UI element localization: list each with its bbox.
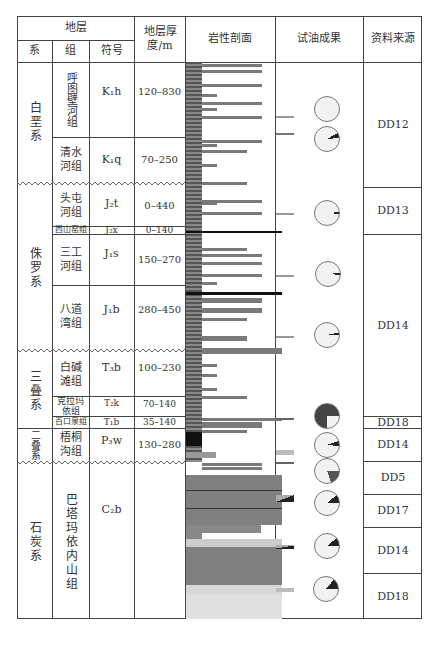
thickness-k1q: 70–250 <box>134 137 185 182</box>
header-lithology: 岩性剖面 <box>205 16 255 62</box>
oil-test-pie <box>314 200 340 226</box>
symbol-j1s: J₁s <box>89 234 134 274</box>
header-symbol: 符号 <box>89 40 134 62</box>
symbol-c2b: C₂b <box>89 465 134 555</box>
oil-tick <box>276 133 294 135</box>
oil-tick <box>276 418 294 420</box>
thickness-t2k: 70–140 <box>134 396 185 412</box>
oil-test-pie <box>314 432 340 458</box>
oil-tick <box>276 213 294 215</box>
formation-t3b: 白碱滩组 <box>56 353 85 396</box>
symbol-j1b: J₁b <box>89 285 134 335</box>
oil-test-pie <box>314 458 340 484</box>
source-label: DD14 <box>365 428 421 461</box>
system-cretaceous: 白垩系 <box>17 62 52 182</box>
system-permian: 二叠系 <box>17 428 52 461</box>
oil-tick <box>276 450 294 455</box>
source-label: DD14 <box>365 234 421 416</box>
symbol-t2k: T₂k <box>89 396 134 410</box>
header-oil-test: 试油成果 <box>295 16 343 62</box>
source-label: DD14 <box>365 527 421 573</box>
thickness-k1h: 120–830 <box>134 62 185 122</box>
formation-j2t: 头屯河组 <box>56 186 85 226</box>
oil-test-pie <box>314 96 340 122</box>
formation-t1b: 百口泉组 <box>52 416 89 428</box>
formation-t2k: 克拉玛依组 <box>54 396 87 416</box>
thickness-j1b: 280–450 <box>134 285 185 335</box>
oil-tick <box>276 275 294 277</box>
oil-test-pie <box>314 126 340 152</box>
formation-j1s: 三工河组 <box>56 234 85 285</box>
oil-test-pie <box>313 576 339 602</box>
source-label: DD5 <box>365 461 421 494</box>
header-system: 系 <box>17 40 52 62</box>
formation-p3w: 梧桐沟组 <box>56 428 85 461</box>
formation-k1h: 呼图壁河组 <box>52 62 89 137</box>
header-thickness: 地层厚度/m <box>138 16 182 62</box>
oil-test-pie <box>314 533 340 559</box>
oil-tick <box>276 545 294 549</box>
header-strata: 地层 <box>17 16 134 40</box>
symbol-t1b: T₁b <box>89 416 134 428</box>
thickness-t3b: 100–230 <box>134 353 185 383</box>
oil-test-pie <box>314 490 340 516</box>
symbol-k1q: K₁q <box>89 137 134 182</box>
oil-tick <box>276 495 294 502</box>
oil-tick <box>276 462 294 464</box>
oil-tick <box>276 588 294 592</box>
thickness-j2x: 0–140 <box>134 226 185 234</box>
thickness-j1s: 150–270 <box>134 234 185 285</box>
symbol-p3w: P₃w <box>89 428 134 454</box>
source-label: DD13 <box>365 187 421 234</box>
lithology-column <box>186 62 282 619</box>
oil-test-pie <box>315 261 341 287</box>
source-label: DD18 <box>365 416 421 428</box>
source-label: DD18 <box>365 573 421 619</box>
formation-k1q: 清水河组 <box>56 137 85 182</box>
oil-test-pie <box>314 322 340 348</box>
thickness-j2t: 0–440 <box>134 186 185 226</box>
oil-tick <box>276 336 294 338</box>
col-line-6 <box>363 16 364 619</box>
formation-c2b: 巴塔玛依内山组 <box>52 465 89 619</box>
symbol-k1h: K₁h <box>89 62 134 122</box>
system-carboniferous: 石炭系 <box>17 465 52 619</box>
thickness-t1b: 35–140 <box>134 416 185 428</box>
symbol-j2t: J₂t <box>89 186 134 221</box>
source-label: DD17 <box>365 494 421 527</box>
core-upper <box>186 62 202 462</box>
system-triassic: 三叠系 <box>17 353 52 428</box>
symbol-t3b: T₃b <box>89 353 134 383</box>
oil-tick <box>276 116 294 118</box>
formation-j1b: 八道湾组 <box>56 285 85 349</box>
oil-test-pie <box>314 403 340 429</box>
symbol-j2x: J₂x <box>89 226 134 234</box>
header-source: 资料来源 <box>370 16 416 62</box>
thickness-p3w: 130–280 <box>134 428 185 461</box>
header-formation: 组 <box>52 40 89 62</box>
formation-j2x: 西山窑组 <box>52 226 89 234</box>
source-label: DD12 <box>365 62 421 187</box>
system-jurassic: 侏罗系 <box>17 186 52 349</box>
